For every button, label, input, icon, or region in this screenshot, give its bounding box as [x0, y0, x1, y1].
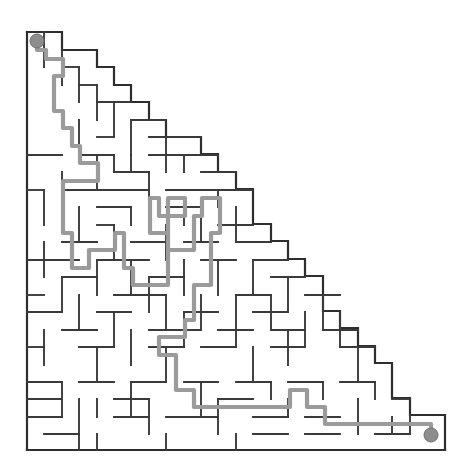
maze-canvas	[0, 0, 461, 474]
start-marker-icon	[30, 34, 44, 48]
maze-figure	[0, 0, 461, 474]
finish-marker-icon	[424, 428, 438, 442]
maze-background	[0, 0, 461, 474]
